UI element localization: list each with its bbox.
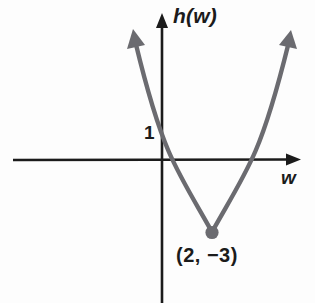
filled-circle-icon bbox=[205, 226, 218, 239]
axis-label-y: h(w) bbox=[173, 5, 217, 26]
graph-figure: h(w) w 1 (2, −3) bbox=[0, 0, 315, 303]
axis-label-x: w bbox=[281, 168, 296, 187]
arrow-up-right-icon bbox=[279, 30, 297, 49]
arrow-up-left-icon bbox=[127, 29, 145, 49]
parabola-path bbox=[136, 43, 289, 233]
y-intercept-label: 1 bbox=[144, 123, 155, 142]
vertex-label: (2, −3) bbox=[176, 245, 238, 265]
arrow-right-icon bbox=[286, 154, 301, 166]
x-axis bbox=[13, 154, 301, 166]
arrow-up-icon bbox=[156, 13, 168, 28]
coordinate-plane bbox=[0, 0, 315, 303]
y-axis bbox=[156, 13, 168, 303]
